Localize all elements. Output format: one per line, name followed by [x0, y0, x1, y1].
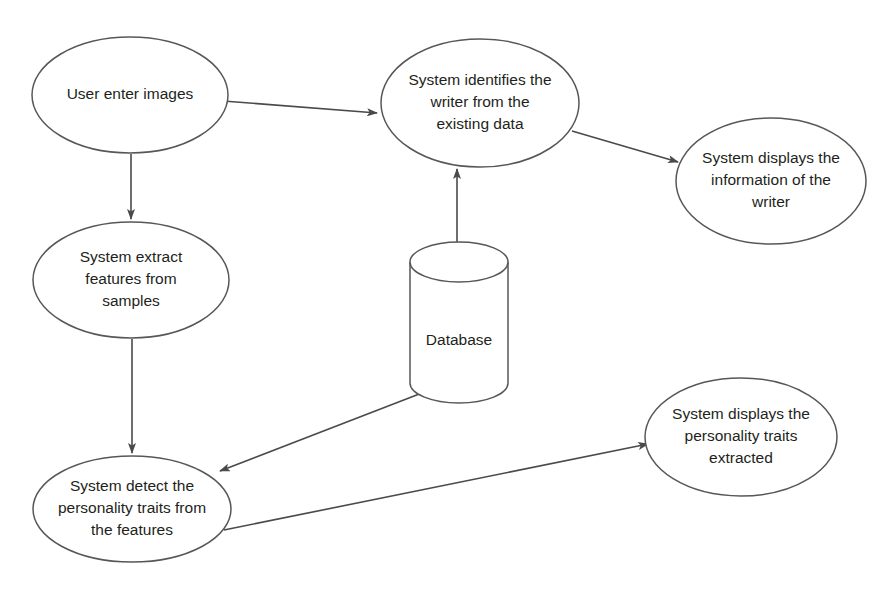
- node-system-detect-personality-traits[interactable]: System detect thepersonality traits from…: [33, 456, 231, 562]
- node-user-enter-images[interactable]: User enter images: [32, 37, 228, 153]
- edge-identify-to-display-info: [572, 131, 678, 162]
- flow-diagram: User enter images System identifies thew…: [0, 0, 892, 594]
- edge-user-to-identify: [223, 101, 377, 113]
- diagram-canvas: User enter images System identifies thew…: [0, 0, 892, 594]
- node-system-identifies-writer[interactable]: System identifies thewriter from theexis…: [381, 39, 579, 167]
- node-system-displays-information[interactable]: System displays theinformation of thewri…: [676, 118, 866, 244]
- edges-layer: [131, 101, 678, 530]
- node-database[interactable]: Database: [410, 242, 508, 403]
- edge-detect-to-display-traits: [224, 444, 648, 530]
- database-cylinder-top: [410, 242, 508, 282]
- edge-database-to-detect: [220, 391, 427, 471]
- node-system-displays-personality-traits[interactable]: System displays thepersonality traitsext…: [645, 378, 837, 496]
- node-label: User enter images: [67, 85, 194, 102]
- node-system-extract-features[interactable]: System extractfeatures fromsamples: [33, 222, 229, 338]
- database-label: Database: [426, 331, 492, 348]
